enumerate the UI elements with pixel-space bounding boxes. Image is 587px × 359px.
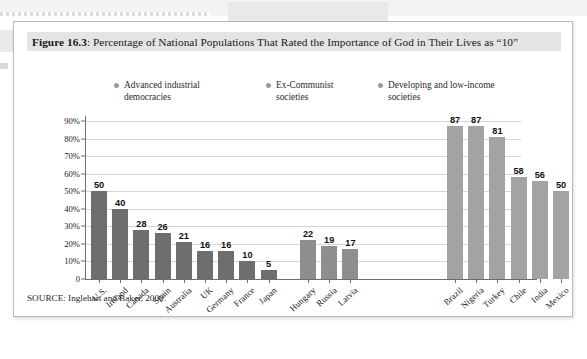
- chart-legend: Advanced industrial democracies Ex-Commu…: [114, 80, 534, 104]
- x-tick-mark: [497, 279, 498, 283]
- bar-value-label: 87: [471, 115, 481, 125]
- figure-title-label: Figure 16.3: [32, 36, 87, 48]
- bar-fill: [342, 249, 358, 279]
- figure-card: Figure 16.3: Percentage of National Popu…: [13, 21, 573, 317]
- bar: 16: [218, 121, 234, 279]
- page-left-tab: [0, 30, 13, 52]
- bar-value-label: 16: [200, 240, 210, 250]
- bar-value-label: 5: [266, 259, 271, 269]
- y-tick-label: 10%: [64, 256, 80, 266]
- x-tick-mark: [476, 279, 477, 283]
- bar: 87: [447, 121, 463, 279]
- x-axis-line: [85, 279, 537, 280]
- chart-plot-area: 010%20%30%40%50%60%70%80%90% 50402826211…: [54, 121, 554, 279]
- y-tick-label: 90%: [64, 116, 80, 126]
- bar: 19: [321, 121, 337, 279]
- bar: 21: [176, 121, 192, 279]
- bar-fill: [239, 261, 255, 279]
- x-tick-mark: [561, 279, 562, 283]
- bar-value-label: 87: [450, 115, 460, 125]
- bar-value-label: 10: [242, 250, 252, 260]
- bar-value-label: 50: [556, 180, 566, 190]
- x-tick-mark: [226, 279, 227, 283]
- x-tick-mark: [269, 279, 270, 283]
- bar-fill: [112, 209, 128, 279]
- bar-fill: [532, 181, 548, 279]
- y-tick-label: 20%: [64, 239, 80, 249]
- bar: 58: [511, 121, 527, 279]
- bar-value-label: 21: [179, 231, 189, 241]
- bar: 10: [239, 121, 255, 279]
- bar: 40: [112, 121, 128, 279]
- y-tick-label: 80%: [64, 134, 80, 144]
- bar-value-label: 16: [221, 240, 231, 250]
- x-tick-label: Turkey: [481, 285, 507, 310]
- bar: 26: [155, 121, 171, 279]
- page-dashed-strip: [0, 12, 210, 16]
- y-tick-label: 50%: [64, 186, 80, 196]
- bar-value-label: 81: [492, 126, 502, 136]
- bar-value-label: 56: [535, 170, 545, 180]
- bar-value-label: 40: [115, 198, 125, 208]
- bar-value-label: 58: [513, 166, 523, 176]
- y-tick-label: 30%: [64, 221, 80, 231]
- x-tick-mark: [350, 279, 351, 283]
- y-tick-label: 0: [76, 274, 80, 284]
- bar-value-label: 22: [303, 229, 313, 239]
- bar-fill: [261, 270, 277, 279]
- x-tick-mark: [205, 279, 206, 283]
- legend-item-ex-communist-societies: Ex-Communist societies: [266, 80, 378, 104]
- bar-fill: [511, 177, 527, 279]
- legend-bullet-icon: [114, 83, 119, 88]
- legend-item-label: Advanced industrial democracies: [124, 80, 200, 104]
- figure-title: Figure 16.3: Percentage of National Popu…: [32, 36, 518, 48]
- bar-fill: [155, 233, 171, 279]
- x-tick-mark: [141, 279, 142, 283]
- bar-fill: [133, 230, 149, 279]
- x-tick-mark: [329, 279, 330, 283]
- x-tick-mark: [99, 279, 100, 283]
- x-tick-mark: [184, 279, 185, 283]
- legend-item-developing-low-income-societies: Developing and low-income societies: [378, 80, 528, 104]
- x-tick-label: Mexico: [544, 285, 571, 311]
- legend-item-advanced-industrial-democracies: Advanced industrial democracies: [114, 80, 266, 104]
- legend-bullet-icon: [266, 83, 271, 88]
- bar-fill: [91, 191, 107, 279]
- bar-fill: [218, 251, 234, 279]
- x-tick-mark: [455, 279, 456, 283]
- bar: 81: [489, 121, 505, 279]
- x-tick-label: Latvia: [336, 285, 360, 308]
- x-tick-mark: [308, 279, 309, 283]
- bar-fill: [447, 126, 463, 279]
- bar: 22: [300, 121, 316, 279]
- x-tick-mark: [120, 279, 121, 283]
- source-note: SOURCE: Inglehart and Baker, 2000.: [27, 293, 166, 303]
- figure-title-rest: : Percentage of National Populations Tha…: [87, 36, 518, 48]
- bar: 50: [553, 121, 569, 279]
- x-tick-label: Chile: [507, 285, 528, 306]
- bar-fill: [176, 242, 192, 279]
- bar-fill: [197, 251, 213, 279]
- x-tick-label: Nigeria: [459, 285, 486, 311]
- bar-value-label: 50: [94, 180, 104, 190]
- x-tick-mark: [163, 279, 164, 283]
- x-tick-mark: [540, 279, 541, 283]
- bar: 17: [342, 121, 358, 279]
- x-tick-label: Japan: [256, 285, 278, 306]
- x-tick-label: France: [232, 285, 257, 309]
- x-tick-mark: [519, 279, 520, 283]
- y-tick-label: 60%: [64, 169, 80, 179]
- bar: 16: [197, 121, 213, 279]
- bar-value-label: 26: [157, 222, 167, 232]
- bar: 56: [532, 121, 548, 279]
- legend-item-label: Developing and low-income societies: [388, 80, 495, 104]
- page-left-dot: [0, 63, 8, 69]
- bars-layer: 50402826211616105221917878781585650: [85, 121, 555, 279]
- y-tick-label: 70%: [64, 151, 80, 161]
- figure-title-band: Figure 16.3: Percentage of National Popu…: [27, 32, 561, 51]
- bar-value-label: 19: [324, 235, 334, 245]
- y-axis-labels: 010%20%30%40%50%60%70%80%90%: [54, 121, 80, 279]
- bar-fill: [489, 137, 505, 279]
- legend-item-label: Ex-Communist societies: [276, 80, 333, 104]
- bar-value-label: 17: [345, 238, 355, 248]
